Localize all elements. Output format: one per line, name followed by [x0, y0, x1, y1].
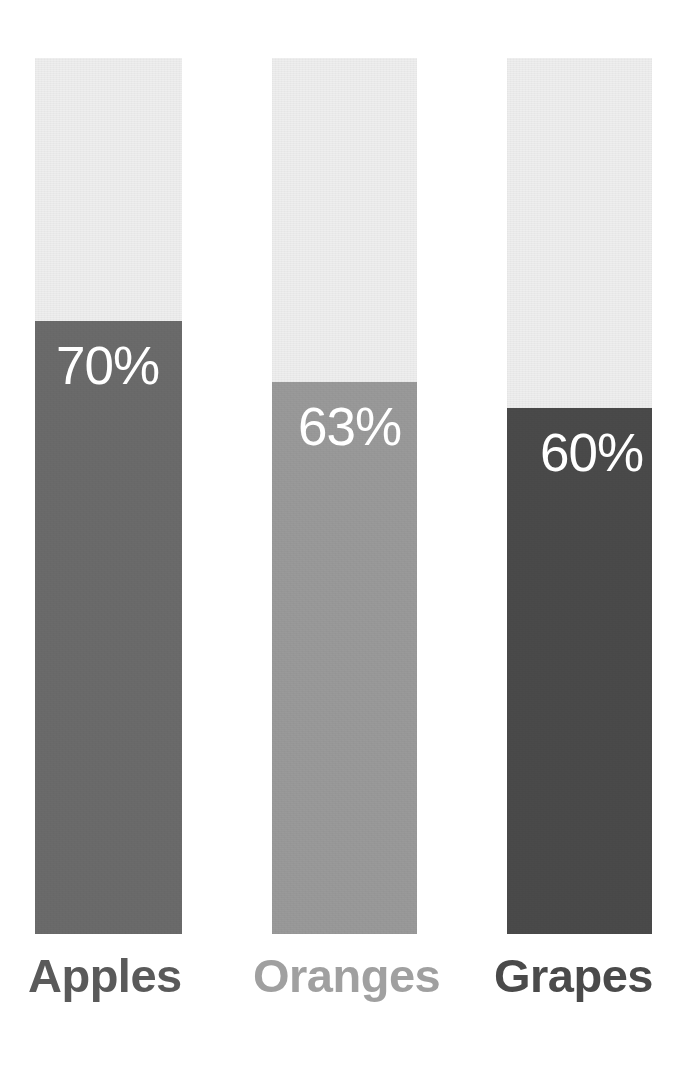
- grain-texture-icon: [507, 408, 652, 934]
- category-label-grapes: Grapes: [494, 952, 653, 999]
- bar-fill-apples: 70%: [35, 321, 182, 934]
- bar-value-label-oranges: 63%: [298, 400, 401, 453]
- bar-column-apples[interactable]: 70%: [35, 58, 182, 934]
- grain-texture-icon: [272, 382, 417, 934]
- bar-fill-grapes: 60%: [507, 408, 652, 934]
- category-label-apples: Apples: [28, 952, 182, 999]
- grain-texture-icon: [35, 321, 182, 934]
- bar-column-oranges[interactable]: 63%: [272, 58, 417, 934]
- bar-chart: 70% 63% 60% Apples Oranges Gra: [0, 0, 693, 1072]
- bar-column-grapes[interactable]: 60%: [507, 58, 652, 934]
- bar-value-label-apples: 70%: [56, 339, 159, 392]
- bar-group: 70% 63% 60% Apples Oranges Gra: [0, 0, 693, 1072]
- bar-fill-oranges: 63%: [272, 382, 417, 934]
- bar-value-label-grapes: 60%: [540, 426, 643, 479]
- category-label-oranges: Oranges: [253, 952, 440, 999]
